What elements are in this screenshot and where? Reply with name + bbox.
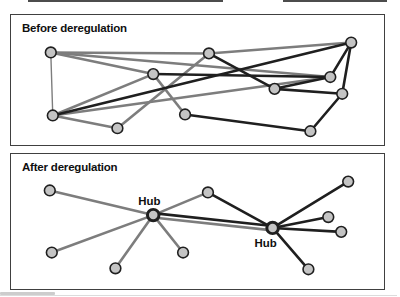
city-node <box>44 185 55 196</box>
city-node <box>47 110 58 121</box>
cropped-caption-remnant <box>0 295 397 297</box>
hub-label: Hub <box>255 237 277 249</box>
figure-canvas: { "colors": { "edge_gray": "#7d7d7d", "e… <box>0 0 400 297</box>
route-edge-gray <box>153 192 208 215</box>
route-edge-black <box>310 94 342 131</box>
city-node <box>180 109 191 120</box>
panel-title-before: Before deregulation <box>22 22 127 34</box>
city-node <box>46 247 57 258</box>
route-edge-black <box>273 228 309 269</box>
before-deregulation-panel: Before deregulation <box>10 14 385 146</box>
city-node <box>178 247 189 258</box>
city-node <box>325 72 336 83</box>
route-edge-gray <box>53 115 118 128</box>
city-node <box>45 47 56 58</box>
after-network-diagram: HubHub <box>11 154 384 289</box>
panel-title-after: After deregulation <box>22 161 117 173</box>
city-node <box>204 48 215 59</box>
city-node <box>346 37 357 48</box>
hub-node <box>267 222 279 233</box>
city-node <box>110 263 121 274</box>
cropped-text-remnant <box>283 0 387 2</box>
city-node <box>305 126 316 137</box>
after-deregulation-panel: HubHub After deregulation <box>10 153 385 290</box>
before-network-diagram <box>11 15 384 145</box>
city-node <box>203 187 214 198</box>
route-edge-black <box>273 228 342 232</box>
city-node <box>337 88 348 99</box>
route-edge-gray <box>51 52 53 115</box>
hub-node <box>147 209 159 220</box>
city-node <box>323 212 334 223</box>
route-edge-black <box>185 114 310 131</box>
route-edge-gray <box>52 215 153 252</box>
route-edge-gray <box>51 52 331 77</box>
city-node <box>343 176 354 187</box>
city-node <box>336 227 347 238</box>
city-node <box>303 264 314 275</box>
cropped-text-remnant <box>28 0 223 2</box>
city-node <box>148 69 159 80</box>
city-node <box>269 84 280 95</box>
route-edge-black <box>275 89 343 94</box>
city-node <box>112 123 123 134</box>
hub-label: Hub <box>138 195 160 207</box>
